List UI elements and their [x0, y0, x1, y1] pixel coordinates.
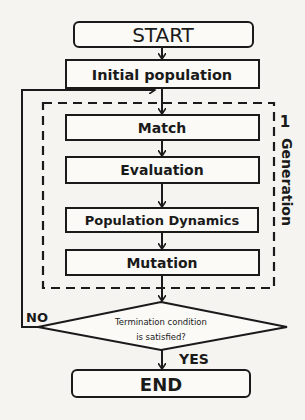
generation-label: Generation [279, 138, 295, 226]
flowchart: START Initial population Match Evaluatio… [0, 0, 305, 420]
start-label: START [132, 23, 194, 47]
initial-population-label: Initial population [92, 67, 232, 83]
mutation-label: Mutation [126, 255, 197, 271]
initial-population-node: Initial population [66, 60, 259, 88]
end-node: END [72, 370, 250, 397]
termination-decision-node: Termination condition is satisfied? [38, 302, 287, 350]
termination-label-line2: is satisfied? [136, 332, 186, 342]
match-node: Match [66, 115, 259, 140]
no-label: NO [26, 310, 48, 325]
population-dynamics-label: Population Dynamics [85, 213, 240, 228]
end-label: END [140, 374, 182, 395]
match-label: Match [138, 120, 186, 136]
mutation-node: Mutation [66, 250, 259, 275]
population-dynamics-node: Population Dynamics [66, 208, 258, 232]
evaluation-node: Evaluation [66, 157, 259, 183]
start-node: START [74, 22, 253, 47]
termination-label-line1: Termination condition [114, 317, 207, 327]
evaluation-label: Evaluation [120, 162, 203, 178]
generation-number: 1 [280, 113, 290, 131]
yes-label: YES [178, 351, 209, 367]
